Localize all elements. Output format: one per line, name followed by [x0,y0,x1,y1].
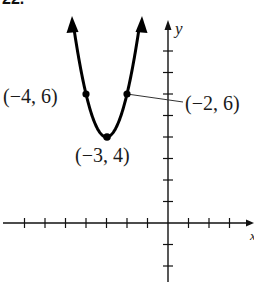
y-axis: y [163,19,183,282]
curve-right-arrow-icon [136,16,148,33]
label-neg4-6: (−4, 6) [3,85,58,108]
label-neg2-6: (−2, 6) [185,92,240,115]
parabola-graph: 22. x y (−4, 6) (−2, 6) (−3, 4) [0,0,254,282]
x-axis-label: x [249,228,254,243]
point-neg4-6 [82,90,89,97]
leader-line [127,94,183,102]
problem-number: 22. [2,0,24,7]
point-neg2-6 [123,90,130,97]
parabola-curve [67,16,148,137]
y-axis-arrow-icon [165,20,172,30]
x-axis-arrow-icon [246,220,254,227]
y-axis-label: y [173,19,183,38]
curve-left-arrow-icon [67,16,79,33]
x-axis: x [3,218,254,243]
vertex-point [103,133,111,141]
label-vertex: (−3, 4) [75,144,130,167]
